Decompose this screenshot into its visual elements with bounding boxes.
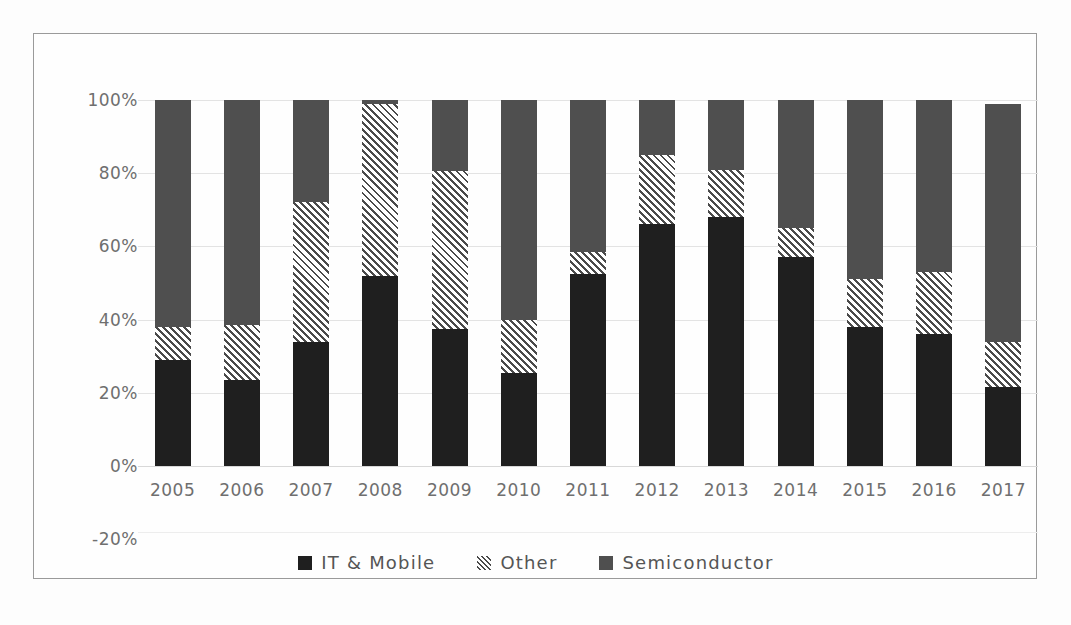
y-tick-label: 60% (76, 236, 138, 256)
bar-2014[interactable] (778, 100, 814, 466)
bar-segment-other[interactable] (708, 170, 744, 218)
bar-segment-it-mobile[interactable] (916, 334, 952, 466)
x-tick-label-2006: 2006 (202, 480, 282, 500)
bar-2006[interactable] (224, 100, 260, 466)
x-tick-label-2007: 2007 (271, 480, 351, 500)
bar-segment-other[interactable] (985, 342, 1021, 388)
bar-2010[interactable] (501, 100, 537, 466)
bar-segment-it-mobile[interactable] (985, 387, 1021, 466)
chart-legend: IT & MobileOtherSemiconductor (34, 552, 1038, 573)
x-tick-label-2015: 2015 (825, 480, 905, 500)
x-tick-label-2005: 2005 (133, 480, 213, 500)
plot-area (138, 100, 1038, 466)
bar-segment-other[interactable] (570, 252, 606, 274)
x-tick-label-2011: 2011 (548, 480, 628, 500)
bar-segment-it-mobile[interactable] (293, 342, 329, 466)
x-tick-label-2017: 2017 (963, 480, 1043, 500)
bar-2009[interactable] (432, 100, 468, 466)
bar-segment-it-mobile[interactable] (708, 217, 744, 466)
x-tick-label-2016: 2016 (894, 480, 974, 500)
y-tick-label: 100% (76, 90, 138, 110)
bar-2012[interactable] (639, 100, 675, 466)
bar-2015[interactable] (847, 100, 883, 466)
bar-segment-other[interactable] (501, 320, 537, 373)
bar-segment-semiconductor[interactable] (639, 100, 675, 155)
bar-segment-it-mobile[interactable] (501, 373, 537, 466)
bar-segment-it-mobile[interactable] (778, 257, 814, 466)
bar-segment-semiconductor[interactable] (432, 100, 468, 171)
chart-page: 100%80%60%40%20%0%-20% 20052006200720082… (0, 0, 1071, 625)
y-tick-label: 80% (76, 163, 138, 183)
x-tick-label-2014: 2014 (756, 480, 836, 500)
bar-segment-it-mobile[interactable] (570, 274, 606, 466)
y-tick-label: 40% (76, 310, 138, 330)
gridline-0 (138, 466, 1038, 467)
x-tick-label-2010: 2010 (479, 480, 559, 500)
gridline-minus-20 (138, 532, 1038, 533)
bar-segment-semiconductor[interactable] (916, 100, 952, 272)
y-axis: 100%80%60%40%20%0%-20% (64, 34, 138, 580)
bar-segment-semiconductor[interactable] (570, 100, 606, 252)
legend-item-semiconductor[interactable]: Semiconductor (599, 552, 773, 573)
legend-swatch-icon (477, 556, 491, 570)
legend-swatch-icon (298, 556, 312, 570)
y-tick-label: 20% (76, 383, 138, 403)
bar-2005[interactable] (155, 100, 191, 466)
bar-segment-semiconductor[interactable] (778, 100, 814, 228)
legend-item-other[interactable]: Other (477, 552, 557, 573)
bar-segment-other[interactable] (293, 202, 329, 341)
bar-segment-it-mobile[interactable] (432, 329, 468, 466)
bar-segment-it-mobile[interactable] (155, 360, 191, 466)
bar-segment-it-mobile[interactable] (362, 276, 398, 466)
x-tick-label-2009: 2009 (410, 480, 490, 500)
legend-label: Semiconductor (622, 552, 773, 573)
bar-segment-semiconductor[interactable] (293, 100, 329, 202)
legend-item-it-mobile[interactable]: IT & Mobile (298, 552, 435, 573)
legend-label: Other (500, 552, 557, 573)
bar-segment-semiconductor[interactable] (224, 100, 260, 325)
x-tick-label-2008: 2008 (340, 480, 420, 500)
x-tick-label-2013: 2013 (686, 480, 766, 500)
bar-segment-it-mobile[interactable] (224, 380, 260, 466)
bar-segment-other[interactable] (916, 272, 952, 334)
y-tick-label: 0% (76, 456, 138, 476)
bar-segment-other[interactable] (778, 228, 814, 257)
bar-segment-semiconductor[interactable] (362, 100, 398, 104)
bar-segment-semiconductor[interactable] (985, 104, 1021, 342)
legend-label: IT & Mobile (321, 552, 435, 573)
bar-segment-semiconductor[interactable] (847, 100, 883, 279)
legend-swatch-icon (599, 556, 613, 570)
bar-segment-semiconductor[interactable] (501, 100, 537, 320)
bar-2011[interactable] (570, 100, 606, 466)
bar-2013[interactable] (708, 100, 744, 466)
bar-segment-other[interactable] (155, 327, 191, 360)
bar-2007[interactable] (293, 100, 329, 466)
bar-segment-it-mobile[interactable] (847, 327, 883, 466)
bar-segment-semiconductor[interactable] (155, 100, 191, 327)
bar-segment-other[interactable] (362, 104, 398, 276)
bar-segment-other[interactable] (847, 279, 883, 327)
bar-2016[interactable] (916, 100, 952, 466)
bar-segment-other[interactable] (432, 171, 468, 328)
x-tick-label-2012: 2012 (617, 480, 697, 500)
bar-segment-semiconductor[interactable] (708, 100, 744, 170)
y-tick-label: -20% (76, 529, 138, 549)
bar-segment-it-mobile[interactable] (639, 224, 675, 466)
bar-2008[interactable] (362, 100, 398, 466)
bar-segment-other[interactable] (639, 155, 675, 225)
bar-2017[interactable] (985, 100, 1021, 466)
bar-segment-other[interactable] (224, 325, 260, 380)
chart-frame: 100%80%60%40%20%0%-20% 20052006200720082… (33, 33, 1037, 579)
